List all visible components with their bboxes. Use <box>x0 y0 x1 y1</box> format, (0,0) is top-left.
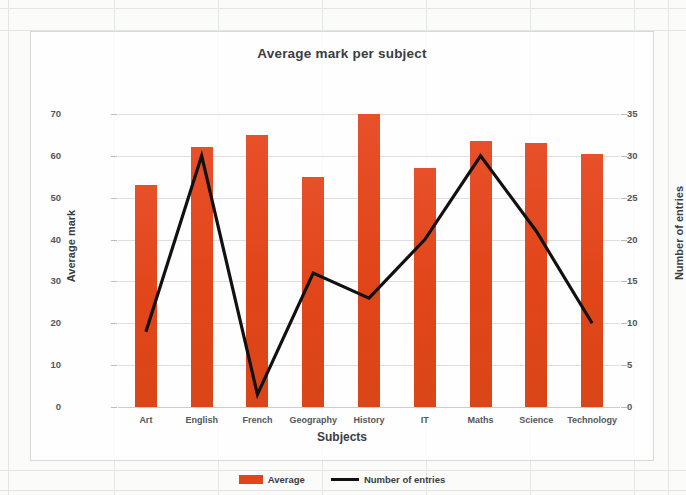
chart-title: Average mark per subject <box>31 46 653 61</box>
y-axis-left-tick: 10 <box>21 359 61 370</box>
y-axis-left-tick: 0 <box>21 401 61 412</box>
y-axis-right-tick-mark <box>621 114 627 115</box>
y-axis-right-tick-mark <box>621 323 627 324</box>
legend-line-swatch-icon <box>331 478 359 481</box>
y-axis-left-tick-mark <box>111 281 117 282</box>
y-axis-left-tick: 70 <box>21 108 61 119</box>
y-axis-right-tick-mark <box>621 198 627 199</box>
y-axis-right-tick-mark <box>621 240 627 241</box>
y-axis-right-title: Number of entries <box>673 186 685 280</box>
y-axis-left-tick: 40 <box>21 234 61 245</box>
legend-item-number-of-entries[interactable]: Number of entries <box>331 474 445 485</box>
y-axis-right-tick: 15 <box>627 275 667 286</box>
y-axis-left-tick-mark <box>111 198 117 199</box>
y-axis-left-tick-mark <box>111 407 117 408</box>
y-axis-right-tick-mark <box>621 156 627 157</box>
y-axis-right-tick: 0 <box>627 401 667 412</box>
y-axis-left-tick-mark <box>111 156 117 157</box>
y-axis-right-tick-mark <box>621 365 627 366</box>
legend-label-number-of-entries: Number of entries <box>364 474 445 485</box>
y-axis-left-tick: 30 <box>21 275 61 286</box>
x-axis-label-technology: Technology <box>552 415 632 425</box>
legend-item-average[interactable]: Average <box>239 474 305 485</box>
y-axis-left-tick: 20 <box>21 317 61 328</box>
y-axis-left-tick: 50 <box>21 192 61 203</box>
x-axis-line <box>118 407 620 408</box>
y-axis-right-tick-mark <box>621 407 627 408</box>
y-axis-right-tick: 5 <box>627 359 667 370</box>
y-axis-left-tick-mark <box>111 240 117 241</box>
legend-label-average: Average <box>268 474 305 485</box>
y-axis-right-tick-mark <box>621 281 627 282</box>
y-axis-left-tick-mark <box>111 114 117 115</box>
legend-bar-swatch-icon <box>239 475 263 484</box>
y-axis-left-tick: 60 <box>21 150 61 161</box>
y-axis-left-title: Average mark <box>65 210 77 282</box>
y-axis-right-tick: 10 <box>627 317 667 328</box>
y-axis-right-tick: 30 <box>627 150 667 161</box>
y-axis-right-tick: 35 <box>627 108 667 119</box>
chart-frame: Average mark per subject Average mark Nu… <box>30 31 654 461</box>
y-axis-left-tick-mark <box>111 365 117 366</box>
line-number-of-entries[interactable] <box>146 156 592 395</box>
y-axis-right-tick: 20 <box>627 234 667 245</box>
y-axis-left-tick-mark <box>111 323 117 324</box>
x-axis-title: Subjects <box>31 430 653 444</box>
y-axis-right-tick: 25 <box>627 192 667 203</box>
chart-legend: Average Number of entries <box>31 474 653 485</box>
line-series-overlay <box>118 114 620 407</box>
